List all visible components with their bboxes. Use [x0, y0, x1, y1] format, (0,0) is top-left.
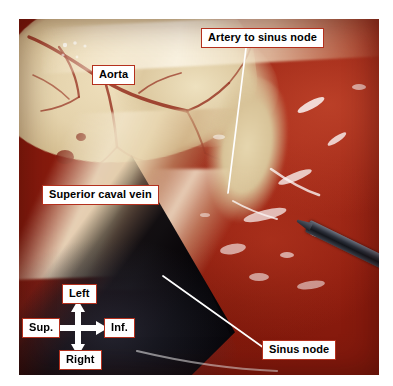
- label-superior-caval-vein: Superior caval vein: [42, 185, 159, 205]
- label-aorta: Aorta: [92, 65, 135, 85]
- label-sinus-node: Sinus node: [262, 340, 336, 360]
- orientation-label-right: Right: [59, 350, 102, 370]
- orientation-label-inferior: Inf.: [104, 318, 135, 338]
- orientation-label-superior: Sup.: [22, 318, 60, 338]
- label-artery-to-sinus-node: Artery to sinus node: [201, 28, 324, 48]
- orientation-label-left: Left: [62, 284, 97, 304]
- anatomical-figure: Artery to sinus node Aorta Superior cava…: [0, 0, 393, 386]
